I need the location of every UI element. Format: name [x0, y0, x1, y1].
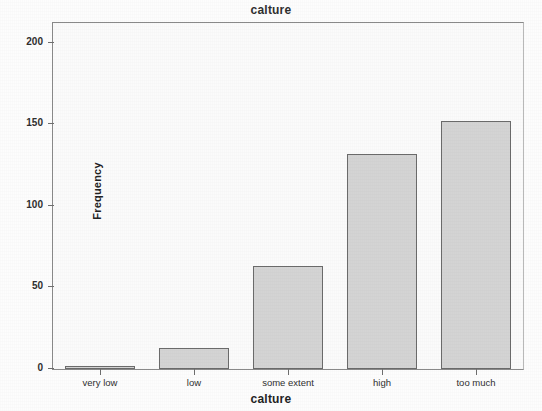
x-tick-label: very low [50, 377, 150, 388]
y-tick-mark [48, 123, 54, 124]
x-axis-label: calture [0, 392, 542, 406]
y-tick-label: 150 [3, 117, 43, 128]
y-tick-mark [48, 205, 54, 206]
y-tick-label: 100 [3, 199, 43, 210]
x-tick-label: low [144, 377, 244, 388]
plot-inner: 050100150200very lowlowsome extenthighto… [53, 23, 523, 369]
x-tick-label: some extent [238, 377, 338, 388]
bar-chart: calture 050100150200very lowlowsome exte… [0, 0, 542, 411]
x-tick-label: too much [426, 377, 526, 388]
bar [441, 121, 511, 369]
x-tick-mark [288, 369, 289, 375]
bar [159, 348, 229, 369]
y-tick-label: 200 [3, 36, 43, 47]
y-tick-label: 0 [3, 362, 43, 373]
x-tick-label: high [332, 377, 432, 388]
bar [253, 266, 323, 369]
x-tick-mark [194, 369, 195, 375]
x-tick-mark [382, 369, 383, 375]
y-tick-label: 50 [3, 280, 43, 291]
bar [347, 154, 417, 369]
y-tick-mark [48, 286, 54, 287]
y-axis-label: Frequency [91, 131, 103, 251]
page-title: calture [0, 3, 542, 17]
plot-area: 050100150200very lowlowsome extenthighto… [52, 22, 524, 370]
x-tick-mark [100, 369, 101, 375]
y-tick-mark [48, 42, 54, 43]
x-tick-mark [476, 369, 477, 375]
y-tick-mark [48, 368, 54, 369]
